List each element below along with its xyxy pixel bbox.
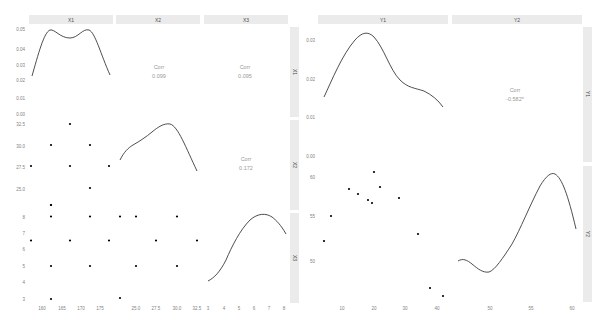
tick-label: 32.5: [193, 306, 202, 311]
density-curve-x1: [32, 30, 110, 76]
corr-value-x2-x3: 0.172: [239, 165, 253, 171]
strip-right-y1-label: Y1: [585, 91, 591, 97]
left-pairs-plot: X1 X2 X3 X1 X2 X3 0.05 0.04 0.03 0.02 0.…: [16, 15, 299, 311]
right-pairs-plot: Y1 Y2 Y1 Y2 0.03 0.02 0.01 0.00 60 55 50…: [306, 15, 592, 311]
tick-label: 0.01: [16, 96, 25, 101]
tick-label: 60: [569, 306, 575, 311]
tick-label: 20: [371, 306, 377, 311]
tick-label: 8: [283, 306, 286, 311]
strip-right-x2-label: X2: [292, 162, 298, 168]
strip-top-x2-label: X2: [155, 17, 161, 23]
corr-value-y1-y2: -0.582*: [506, 96, 525, 102]
tick-label: 0.02: [16, 78, 25, 83]
tick-label: 50: [487, 306, 493, 311]
tick-label: 0.03: [306, 38, 315, 43]
x-axis-right-col1: 10 20 30 40: [339, 306, 440, 311]
tick-label: 60: [310, 175, 316, 180]
tick-label: 30: [402, 306, 408, 311]
tick-label: 4: [22, 280, 25, 285]
strip-right-x3-label: X3: [292, 255, 298, 261]
corr-label-x1-x2: Corr: [154, 64, 165, 70]
tick-label: 27.5: [152, 306, 161, 311]
density-curve-y2: [458, 174, 576, 273]
tick-label: 0.00: [16, 112, 25, 117]
tick-label: 5: [22, 264, 25, 269]
tick-label: 0.05: [16, 27, 25, 32]
tick-label: 6: [253, 306, 256, 311]
tick-label: 55: [310, 214, 316, 219]
tick-label: 7: [268, 306, 271, 311]
density-curve-x2: [120, 124, 197, 171]
tick-label: 0.02: [306, 77, 315, 82]
tick-label: 6: [22, 247, 25, 252]
tick-label: 5: [238, 306, 241, 311]
corr-label-x2-x3: Corr: [241, 156, 252, 162]
tick-label: 170: [77, 306, 85, 311]
corr-value-x1-x2: 0.099: [152, 73, 166, 79]
y-axis-right-row2: 60 55 50: [310, 175, 316, 264]
scatter-x3-vs-x2: [119, 215, 198, 299]
scatter-y2-vs-y1: [323, 171, 444, 297]
y-axis-right-row1: 0.03 0.02 0.01 0.00: [306, 38, 315, 159]
tick-label: 0.01: [306, 115, 315, 120]
tick-label: 25.0: [16, 187, 25, 192]
tick-label: 30.0: [16, 144, 25, 149]
tick-label: 25.0: [132, 306, 141, 311]
tick-label: 3: [22, 297, 25, 302]
tick-label: 7: [22, 231, 25, 236]
tick-label: 8: [22, 215, 25, 220]
scatter-x2-vs-x1: [30, 123, 110, 206]
y-axis-row1: 0.05 0.04 0.03 0.02 0.01 0.00: [16, 27, 25, 117]
tick-label: 175: [96, 306, 104, 311]
corr-label-x1-x3: Corr: [240, 64, 251, 70]
y-axis-row2: 32.5 30.0 27.5 25.0: [16, 122, 25, 192]
x-axis-right-col2: 50 55 60: [487, 306, 575, 311]
pairs-plots: X1 X2 X3 X1 X2 X3 0.05 0.04 0.03 0.02 0.…: [0, 0, 605, 324]
strip-top-x3-label: X3: [243, 17, 249, 23]
tick-label: 55: [528, 306, 534, 311]
tick-label: 165: [58, 306, 66, 311]
density-curve-y1: [324, 33, 443, 107]
x-axis-col2: 25.0 27.5 30.0 32.5: [132, 306, 202, 311]
x-axis-col1: 160 165 170 175: [38, 306, 104, 311]
strip-top-y2-label: Y2: [514, 17, 520, 23]
tick-label: 30.0: [173, 306, 182, 311]
tick-label: 3: [207, 306, 210, 311]
density-curve-x3: [208, 214, 286, 281]
tick-label: 4: [223, 306, 226, 311]
x-axis-col3: 3 4 5 6 7 8: [207, 306, 286, 311]
corr-label-y1-y2: Corr: [510, 87, 521, 93]
strip-top-y1-label: Y1: [380, 17, 386, 23]
tick-label: 0.03: [16, 63, 25, 68]
tick-label: 10: [339, 306, 345, 311]
corr-value-x1-x3: 0.095: [238, 73, 252, 79]
tick-label: 50: [310, 259, 316, 264]
strip-top-x1-label: X1: [68, 17, 74, 23]
tick-label: 0.04: [16, 47, 25, 52]
tick-label: 32.5: [16, 122, 25, 127]
tick-label: 0.00: [306, 154, 315, 159]
tick-label: 27.5: [16, 165, 25, 170]
scatter-x3-vs-x1: [30, 204, 110, 300]
y-axis-row3: 8 7 6 5 4 3: [22, 215, 25, 302]
strip-right-y2-label: Y2: [585, 231, 591, 237]
tick-label: 160: [38, 306, 46, 311]
tick-label: 40: [434, 306, 440, 311]
strip-right-x1-label: X1: [292, 69, 298, 75]
